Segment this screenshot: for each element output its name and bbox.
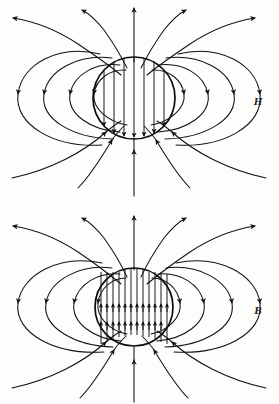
- b-loop-right-1: [152, 278, 180, 303]
- h-open-line-right: [156, 140, 190, 188]
- b-open-top-far-right: [147, 226, 255, 284]
- h-loop-left-3b: [18, 94, 102, 145]
- b-loop-right-3: [166, 267, 232, 303]
- h-field-panel: H: [0, 0, 279, 202]
- b-exterior-field-lines: [12, 216, 266, 402]
- b-loop-left-3b: [46, 303, 113, 347]
- b-field-panel: B: [0, 202, 279, 404]
- figure-root: H: [0, 0, 279, 404]
- b-open-line-right: [154, 350, 188, 398]
- h-loop-right-4: [152, 70, 184, 94]
- h-open-line-left: [78, 140, 112, 188]
- b-loop-right-4: [176, 261, 260, 303]
- h-loop-right-3b: [176, 94, 260, 145]
- b-loop-right-3b: [165, 303, 232, 347]
- h-open-top-far-left: [13, 18, 121, 75]
- h-loop-left-4: [94, 70, 126, 94]
- h-loop-left-2: [44, 57, 112, 94]
- b-loop-left-1: [98, 278, 126, 303]
- panel-label-h: H: [253, 95, 263, 107]
- h-loop-right-2: [166, 57, 234, 94]
- b-loop-left-4: [18, 261, 102, 303]
- h-open-top-far-right: [147, 18, 255, 75]
- b-loop-right-2: [158, 274, 204, 303]
- b-open-line-far-right: [172, 342, 266, 388]
- h-loop-right-3: [178, 51, 260, 94]
- panel-label-b: B: [253, 304, 261, 316]
- b-open-top-right: [141, 218, 186, 277]
- h-open-line-far-right: [172, 132, 266, 178]
- h-loop-left-3: [18, 51, 100, 94]
- b-open-line-left: [80, 350, 114, 398]
- h-exterior-field-lines: [12, 8, 266, 196]
- b-open-line-far-left: [12, 342, 106, 388]
